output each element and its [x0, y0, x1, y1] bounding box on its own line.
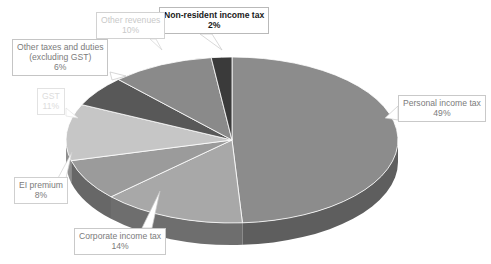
- pie-label-other-taxes-and-duties[interactable]: Other taxes and duties (excluding GST) 6…: [12, 39, 108, 76]
- pie-label-name: Non-resident income tax: [164, 10, 264, 20]
- pie-label-gst[interactable]: GST 11%: [37, 88, 65, 115]
- leader-line-non-resident: [200, 34, 222, 50]
- pie-label-value: 14%: [79, 241, 161, 251]
- pie-label-name: Corporate income tax: [79, 231, 161, 241]
- pie-label-value: 8%: [19, 190, 63, 200]
- pie-label-non-resident-income-tax[interactable]: Non-resident income tax 2%: [159, 7, 269, 34]
- pie-label-value: 10%: [101, 25, 160, 35]
- pie-label-value: 11%: [42, 101, 60, 111]
- pie-label-value: 2%: [164, 20, 264, 30]
- pie-label-personal-income-tax[interactable]: Personal income tax 49%: [398, 95, 486, 122]
- pie-label-name: EI premium: [19, 180, 63, 190]
- pie-top-face: [66, 57, 398, 223]
- pie-label-ei-premium[interactable]: EI premium 8%: [14, 177, 68, 204]
- pie-label-name: Other revenues: [101, 15, 160, 25]
- pie-label-name-line1: Other taxes and duties: [17, 42, 103, 52]
- pie-label-name-line2: (excluding GST): [17, 52, 103, 62]
- pie-label-other-revenues[interactable]: Other revenues 10%: [96, 12, 165, 39]
- pie-label-value: 49%: [403, 108, 481, 118]
- leader-line-other-revenues: [150, 39, 162, 50]
- pie-chart-figure: Non-resident income tax 2% Other revenue…: [0, 0, 491, 264]
- pie-label-corporate-income-tax[interactable]: Corporate income tax 14%: [74, 228, 166, 255]
- pie-label-name: GST: [42, 91, 60, 101]
- pie-label-value: 6%: [17, 62, 103, 72]
- pie-label-name: Personal income tax: [403, 98, 481, 108]
